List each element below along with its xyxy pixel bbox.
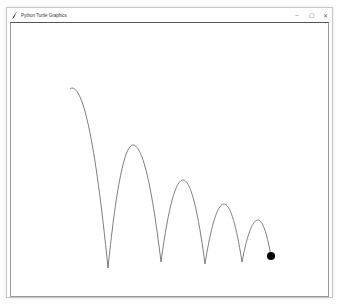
bouncing-ball-plot xyxy=(0,0,339,307)
ball-trajectory-trail xyxy=(70,88,271,268)
ball-turtle xyxy=(267,252,275,260)
